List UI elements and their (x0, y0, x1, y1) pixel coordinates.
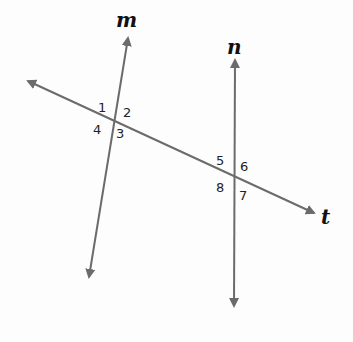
angle-5: 5 (216, 153, 224, 168)
label-m: m (116, 8, 137, 32)
label-n: n (227, 35, 242, 59)
angle-8: 8 (216, 180, 224, 195)
angle-3: 3 (116, 126, 124, 141)
parallel-lines-transversal-diagram: m n t 1 2 3 4 5 6 7 8 (0, 0, 353, 342)
line-n (234, 60, 235, 306)
angle-1: 1 (98, 100, 106, 115)
angle-4: 4 (93, 122, 101, 137)
label-t: t (321, 205, 331, 229)
angle-7: 7 (239, 188, 247, 203)
angle-6: 6 (240, 159, 248, 174)
angle-2: 2 (123, 105, 131, 120)
line-m (89, 38, 128, 277)
line-t (28, 81, 314, 213)
